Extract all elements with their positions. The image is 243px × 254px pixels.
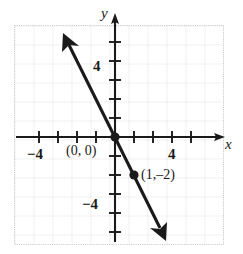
y-tick-label-neg-4: −4	[82, 197, 98, 212]
point-label-one-neg-two: (1,–2)	[141, 168, 175, 182]
y-tick-label-4: 4	[93, 59, 101, 74]
y-axis-label: y	[101, 6, 108, 21]
x-axis-label: x	[225, 137, 232, 152]
coordinate-plane-svg	[0, 0, 243, 254]
point-marker-origin	[110, 132, 119, 141]
point-marker-one-neg-two	[129, 170, 138, 179]
x-tick-label-4: 4	[168, 147, 176, 162]
x-tick-label-neg-4: −4	[27, 147, 43, 162]
line-graph-figure: y x −4 4 4 −4 (0, 0) (1,–2)	[0, 0, 243, 254]
point-label-origin: (0, 0)	[66, 144, 96, 158]
